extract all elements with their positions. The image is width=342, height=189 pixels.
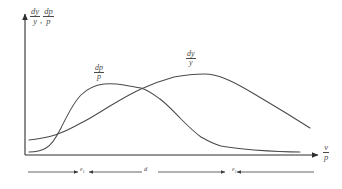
curve-label-dp-over-p: dp p: [94, 64, 104, 82]
curve-dp-over-p: [29, 84, 300, 152]
y-axis-label: dy y , dp p: [30, 7, 54, 26]
dimension-label-epsilon-left: ε1: [80, 166, 85, 175]
y-axis-label-dp-over-p: dp p: [43, 7, 54, 26]
dimension-label-epsilon-left-subscript: 1: [83, 169, 85, 174]
curve-label-dy-over-y: dy y: [186, 50, 196, 68]
dimension-label-d: d: [144, 166, 147, 175]
y-axis-label-dy-over-y: dy y: [30, 7, 40, 26]
figure-container: dy y , dp p v p dp p dy y ε1 d ε1: [0, 0, 342, 189]
dimension-label-epsilon-right-subscript: 1: [235, 169, 237, 174]
dimension-label-epsilon-right: ε1: [232, 166, 237, 175]
chart-svg: [0, 0, 342, 189]
y-axis-label-separator: ,: [40, 16, 43, 25]
x-axis-label: v p: [323, 143, 329, 162]
